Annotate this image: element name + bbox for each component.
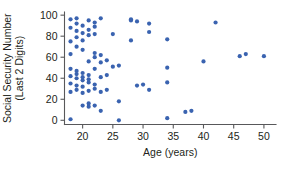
data-point (74, 21, 78, 25)
data-point (81, 91, 85, 95)
data-point (74, 29, 78, 33)
data-point (165, 80, 169, 84)
data-point (99, 16, 103, 20)
data-point (74, 84, 78, 88)
data-point (93, 87, 97, 91)
data-point (87, 73, 91, 77)
data-point (68, 39, 72, 43)
data-point (93, 51, 97, 55)
data-point (93, 20, 97, 24)
data-point (165, 66, 169, 70)
data-point (262, 54, 266, 58)
data-point (81, 85, 85, 89)
data-point (74, 76, 78, 80)
y-tick-label: 20 (46, 93, 58, 105)
data-point (93, 32, 97, 36)
data-point (99, 109, 103, 113)
data-point (105, 58, 109, 62)
data-point (105, 88, 109, 92)
data-point (141, 82, 145, 86)
data-point (68, 52, 72, 56)
data-point (81, 38, 85, 42)
data-point (244, 52, 248, 56)
x-axis-title: Age (years) (143, 146, 197, 158)
x-tick-label: 30 (137, 130, 149, 142)
data-point (68, 74, 72, 78)
data-point (93, 82, 97, 86)
x-tick-label: 45 (228, 130, 240, 142)
data-point (87, 77, 91, 81)
y-tick-label: 40 (46, 72, 58, 84)
x-tick-label: 40 (198, 130, 210, 142)
data-point (74, 35, 78, 39)
data-point (81, 31, 85, 35)
data-point (129, 38, 133, 42)
data-point (147, 30, 151, 34)
data-point (74, 45, 78, 49)
data-point (135, 19, 139, 23)
data-point (93, 25, 97, 29)
x-tick-label: 35 (167, 130, 179, 142)
data-point (81, 71, 85, 75)
chart-canvas: 02040608010020253035404550Age (years)Soc… (0, 0, 287, 170)
data-point (147, 88, 151, 92)
data-point (87, 89, 91, 93)
data-point (99, 75, 103, 79)
x-tick-label: 50 (258, 130, 270, 142)
y-tick-label: 0 (52, 114, 58, 126)
data-point (99, 60, 103, 64)
data-point-group (68, 16, 266, 122)
data-point (201, 59, 205, 63)
data-point (81, 75, 85, 79)
data-point (68, 117, 72, 121)
data-point (135, 84, 139, 88)
data-point (165, 116, 169, 120)
scatter-plot-figure: 02040608010020253035404550Age (years)Soc… (0, 0, 287, 170)
data-point (213, 20, 217, 24)
data-point (93, 67, 97, 71)
data-point (81, 103, 85, 107)
data-point (87, 28, 91, 32)
data-point (117, 64, 121, 68)
data-point (68, 26, 72, 30)
data-point (99, 53, 103, 57)
data-point (165, 37, 169, 41)
data-point (74, 69, 78, 73)
y-axis-title-line2: (Last 2 Digits) (13, 36, 25, 101)
data-point (74, 16, 78, 20)
y-tick-label: 80 (46, 30, 58, 42)
data-point (117, 118, 121, 122)
data-point (129, 18, 133, 22)
data-point (68, 67, 72, 71)
data-point (87, 101, 91, 105)
data-point (99, 90, 103, 94)
data-point (111, 32, 115, 36)
data-point (87, 33, 91, 37)
data-point (81, 48, 85, 52)
x-tick-label: 25 (107, 130, 119, 142)
data-point (93, 103, 97, 107)
data-point (81, 24, 85, 28)
data-point (189, 109, 193, 113)
data-point (147, 21, 151, 25)
data-point (105, 73, 109, 77)
y-tick-label: 60 (46, 51, 58, 63)
data-point (238, 54, 242, 58)
x-tick-label: 20 (77, 130, 89, 142)
data-point (74, 88, 78, 92)
y-axis-title-line1: Social Security Number (1, 13, 13, 123)
data-point (117, 99, 121, 103)
y-tick-label: 100 (40, 9, 58, 21)
data-point (87, 59, 91, 63)
data-point (68, 81, 72, 85)
data-point (111, 65, 115, 69)
data-point (87, 18, 91, 22)
data-point (183, 110, 187, 114)
data-point (93, 55, 97, 59)
data-point (68, 17, 72, 21)
data-point (68, 90, 72, 94)
